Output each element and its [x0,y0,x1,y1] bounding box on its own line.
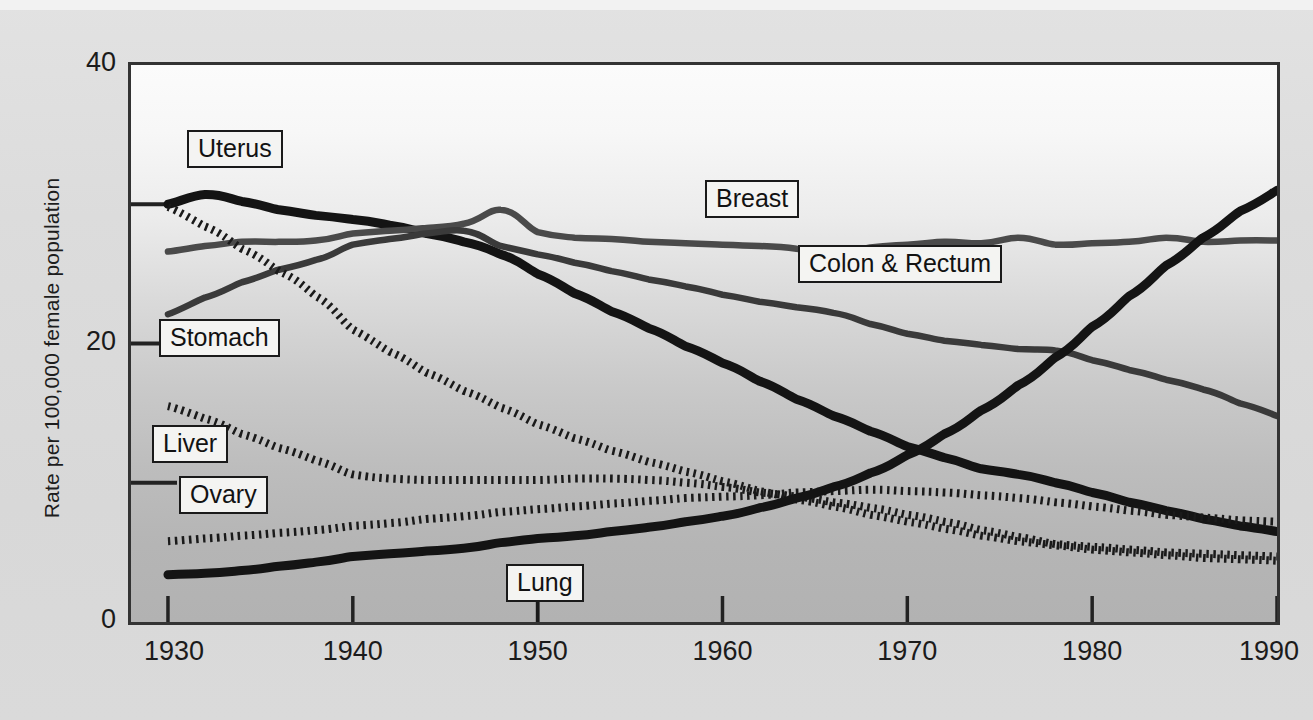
paper-top-edge [0,0,1313,10]
x-tick-label: 1940 [308,636,398,667]
y-tick-label: 0 [56,604,116,635]
x-tick-label: 1990 [1224,636,1313,667]
series-label-uterus: Uterus [187,130,283,168]
series-label-colon-rectum: Colon & Rectum [798,245,1002,283]
series-line-colon-rectum [168,230,1277,416]
plot-area [128,62,1280,625]
x-tick-label: 1970 [862,636,952,667]
series-label-breast: Breast [705,180,799,218]
x-tick-label: 1980 [1047,636,1137,667]
series-label-ovary: Ovary [179,476,268,514]
x-tick-label: 1930 [129,636,219,667]
y-tick-label: 40 [56,47,116,78]
series-line-lung [168,190,1277,574]
series-label-stomach: Stomach [159,319,280,357]
chart-lines-svg [131,65,1277,622]
y-tick-label: 20 [56,326,116,357]
chart-page: Rate per 100,000 female population 02040… [0,0,1313,720]
series-label-liver: Liver [152,425,228,463]
x-tick-label: 1950 [493,636,583,667]
x-tick-label: 1960 [677,636,767,667]
series-label-lung: Lung [506,564,584,602]
